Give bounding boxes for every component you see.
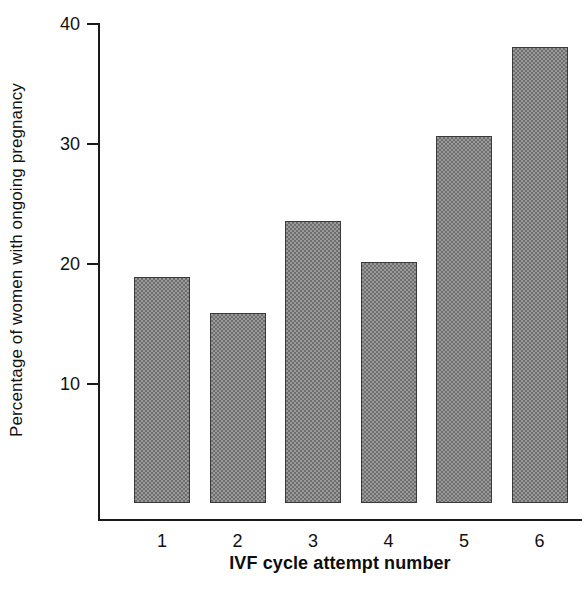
bar-5: [436, 136, 492, 503]
y-axis-line: [98, 23, 100, 521]
bar-6: [512, 47, 568, 503]
x-tick-label-3: 3: [308, 531, 318, 552]
bar-1: [134, 277, 190, 503]
x-tick-label-2: 2: [232, 531, 242, 552]
y-tick-40: 40: [87, 23, 99, 25]
bar-2: [210, 313, 266, 503]
y-tick-label-20: 20: [60, 254, 80, 275]
x-axis-title: IVF cycle attempt number: [98, 553, 582, 574]
bar-3: [285, 221, 341, 503]
y-axis-title: Percentage of women with ongoing pregnan…: [0, 0, 34, 520]
x-tick-label-6: 6: [534, 531, 544, 552]
x-axis-line: [98, 519, 582, 521]
x-tick-label-4: 4: [383, 531, 393, 552]
bar-4: [361, 262, 417, 503]
plot-area: 40 30 20 10 1 2 3 4 5 6: [98, 23, 582, 521]
y-tick-label-10: 10: [60, 374, 80, 395]
x-tick-label-1: 1: [157, 531, 167, 552]
y-tick-label-40: 40: [60, 14, 80, 35]
x-tick-label-5: 5: [459, 531, 469, 552]
bar-chart-figure: Percentage of women with ongoing pregnan…: [0, 0, 582, 598]
y-tick-30: 30: [87, 143, 99, 145]
y-tick-20: 20: [87, 263, 99, 265]
y-tick-10: 10: [87, 383, 99, 385]
y-tick-label-30: 30: [60, 134, 80, 155]
